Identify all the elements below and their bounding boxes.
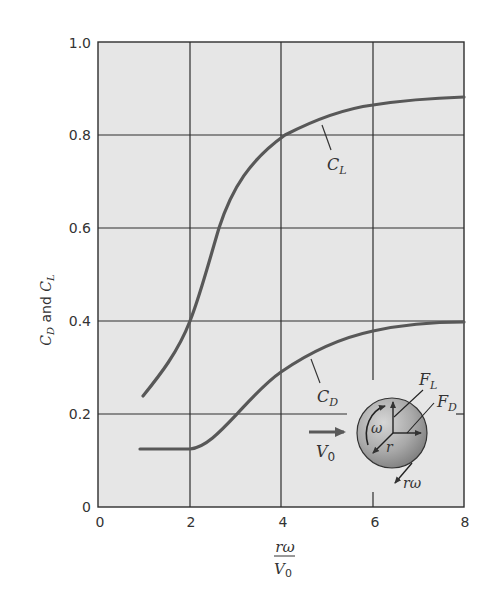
- y-tick: 0.8: [69, 127, 91, 143]
- y-tick: 1.0: [69, 35, 91, 51]
- x-label-numerator: rω: [275, 538, 294, 556]
- y-tick: 0.2: [69, 406, 91, 422]
- plot-area: CL CD V0 ω r rω: [98, 42, 464, 507]
- x-tick: 6: [371, 514, 380, 530]
- x-tick: 4: [279, 514, 288, 530]
- r-omega-label: rω: [403, 475, 422, 491]
- y-tick: 0: [82, 499, 91, 515]
- x-axis-label: rω V0: [274, 538, 295, 580]
- chart: CL CD V0 ω r rω: [0, 0, 491, 611]
- y-axis-ticks: 0 0.2 0.4 0.6 0.8 1.0: [69, 35, 91, 515]
- y-tick: 0.6: [69, 220, 91, 236]
- omega-label: ω: [371, 420, 383, 436]
- y-tick: 0.4: [69, 313, 91, 329]
- x-tick: 2: [187, 514, 196, 530]
- x-axis-ticks: 0 2 4 6 8: [96, 514, 470, 530]
- x-label-denominator: V0: [274, 560, 292, 580]
- x-tick: 0: [96, 514, 105, 530]
- y-axis-label: CD and CL: [38, 274, 56, 346]
- x-tick: 8: [461, 514, 470, 530]
